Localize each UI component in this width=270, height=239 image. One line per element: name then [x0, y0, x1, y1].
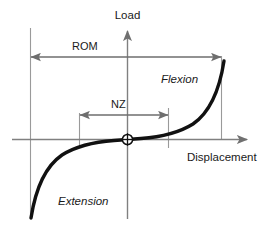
nz-label: NZ — [111, 98, 126, 110]
diagram-canvas: Load Displacement Flexion Extension ROM … — [0, 0, 270, 239]
flexion-label: Flexion — [161, 73, 198, 85]
load-displacement-figure: Load Displacement Flexion Extension ROM … — [0, 0, 270, 239]
rom-label: ROM — [72, 40, 98, 52]
x-axis-label: Displacement — [187, 151, 257, 163]
origin-marker — [121, 133, 134, 146]
caption-fragment — [0, 232, 270, 239]
extension-label: Extension — [58, 195, 109, 207]
y-axis-label: Load — [115, 9, 141, 21]
